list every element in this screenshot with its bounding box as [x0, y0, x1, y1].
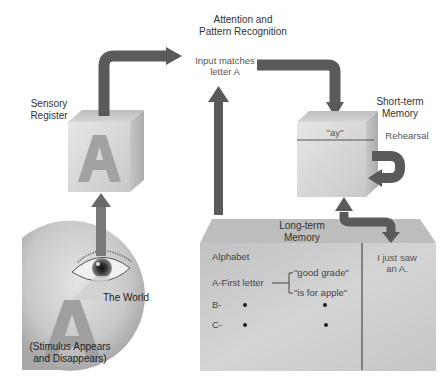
sensory-title-line1: Sensory [22, 98, 76, 110]
ltm-assoc-apple: "is for apple" [294, 287, 347, 298]
ltm-episodic-note: I just saw an A. [364, 252, 430, 274]
ltm-assoc-good-grade: "good grade" [294, 267, 349, 278]
stm-content: "ay" [315, 127, 355, 138]
ltm-row-b-label: B- [212, 299, 222, 310]
stm-title: Short-term Memory [365, 96, 435, 120]
sensory-title-line2: Register [22, 110, 76, 122]
ltm-row-a-label: A-First letter [212, 277, 264, 288]
sensory-register-cube [68, 110, 144, 192]
short-term-memory-cube [297, 111, 378, 197]
ltm-title-line1: Long-term [272, 220, 332, 232]
episodic-line2: an A. [364, 263, 430, 274]
stimulus-line1: (Stimulus Appears [20, 341, 120, 353]
ltm-row-c-label: C- [212, 319, 222, 330]
attention-title-line1: Attention and [178, 14, 308, 26]
attention-note: Input matches letter A [185, 55, 265, 77]
ltm-semantic-heading: Alphabet [212, 251, 250, 262]
iris-icon [92, 258, 112, 278]
stimulus-line2: and Disappears) [20, 353, 120, 365]
episodic-line1: I just saw [364, 252, 430, 263]
ltm-title-line2: Memory [272, 232, 332, 244]
sensory-register-title: Sensory Register [22, 98, 76, 122]
attention-title-line2: Pattern Recognition [178, 26, 308, 38]
ellipsis-dot [243, 303, 247, 307]
stimulus-caption: (Stimulus Appears and Disappears) [20, 341, 120, 365]
world-label: The World [103, 292, 149, 303]
stm-title-line1: Short-term [365, 96, 435, 108]
stm-title-line2: Memory [365, 108, 435, 120]
arrow-ltm-to-attention [208, 86, 229, 215]
ellipsis-dot [324, 323, 328, 327]
ellipsis-dot [323, 303, 327, 307]
rehearsal-label: Rehearsal [377, 130, 437, 141]
attention-note-line1: Input matches [185, 55, 265, 66]
arrow-sensory-to-attention [104, 47, 182, 116]
arrow-attention-to-stm [257, 65, 344, 117]
ltm-title: Long-term Memory [272, 220, 332, 244]
ellipsis-dot [243, 323, 247, 327]
attention-title: Attention and Pattern Recognition [178, 14, 308, 38]
attention-note-line2: letter A [185, 66, 265, 77]
